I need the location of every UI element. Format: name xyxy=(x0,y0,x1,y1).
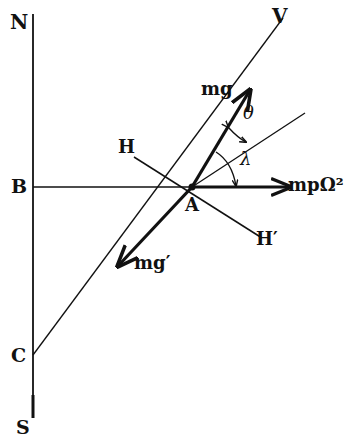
label-b: B xyxy=(11,177,27,196)
label-h: H xyxy=(118,138,135,156)
label-vertical: V xyxy=(272,6,288,26)
label-centrifugal: mpΩ² xyxy=(288,176,344,194)
label-south: S xyxy=(16,418,30,437)
label-c: C xyxy=(11,346,26,365)
label-a: A xyxy=(185,196,199,214)
label-h-prime: H′ xyxy=(256,230,278,248)
label-gravity-effective: mg′ xyxy=(134,254,170,272)
label-theta: θ xyxy=(243,104,254,122)
theta-arc xyxy=(228,127,246,142)
point-a-dot xyxy=(189,184,196,191)
label-lambda: λ xyxy=(240,150,251,168)
label-gravity: mg xyxy=(201,80,233,98)
label-north: N xyxy=(10,12,28,32)
